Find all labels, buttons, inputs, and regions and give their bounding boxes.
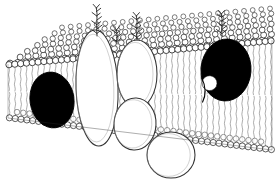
- phospholipid-head-group: [71, 44, 77, 50]
- phospholipid-head-group: [177, 19, 182, 24]
- phospholipid-head-group: [86, 23, 91, 28]
- phospholipid-head-group: [198, 28, 204, 34]
- phospholipid-head-group: [239, 137, 245, 143]
- phospholipid-head-group: [118, 40, 124, 46]
- phospholipid-head-group: [187, 24, 192, 29]
- phospholipid-head-group: [258, 139, 264, 145]
- phospholipid-head-group: [189, 131, 195, 137]
- phospholipid-head-group: [66, 34, 71, 39]
- phospholipid-head-group: [207, 12, 212, 17]
- phospholipid-head-group: [269, 11, 274, 16]
- phospholipid-head-group: [173, 35, 179, 41]
- phospholipid-head-group: [155, 16, 160, 21]
- phospholipid-head-group: [164, 16, 169, 21]
- phospholipid-head-group: [175, 30, 181, 36]
- phospholipid-head-group: [259, 7, 264, 12]
- phospholipid-head-group: [160, 21, 165, 26]
- phospholipid-head-group: [23, 60, 29, 66]
- phospholipid-head-group: [47, 58, 53, 64]
- phospholipid-head-group: [261, 22, 267, 28]
- phospholipid-head-group: [35, 42, 41, 48]
- phospholipid-head-group: [35, 59, 41, 65]
- phospholipid-head-group: [214, 134, 220, 140]
- phospholipid-head-group: [127, 24, 132, 29]
- phospholipid-head-group: [175, 46, 181, 52]
- phospholipid-head-group: [50, 36, 55, 41]
- phospholipid-head-group: [129, 19, 134, 24]
- phospholipid-head-group: [245, 23, 251, 29]
- phospholipid-head-group: [152, 22, 157, 27]
- phospholipid-head-group: [12, 61, 18, 67]
- phospholipid-head-group: [183, 29, 189, 35]
- phospholipid-head-group: [198, 44, 204, 50]
- phospholipid-head-group: [50, 41, 56, 47]
- phospholipid-head-group: [233, 9, 238, 14]
- phospholipid-head-group: [237, 24, 243, 30]
- phospholipid-head-group: [112, 20, 117, 25]
- phospholipid-head-group: [191, 28, 197, 34]
- fluid-mosaic-diagram: [0, 0, 280, 181]
- phospholipid-head-group: [189, 33, 195, 39]
- phospholipid-head-group: [60, 25, 65, 30]
- phospholipid-head-group: [150, 37, 156, 43]
- phospholipid-head-group: [122, 29, 127, 34]
- phospholipid-head-group: [159, 31, 165, 37]
- phospholipid-head-group: [103, 21, 108, 26]
- phospholipid-head-group: [250, 8, 255, 13]
- phospholipid-head-group: [186, 45, 192, 51]
- phospholipid-head-group: [42, 37, 47, 42]
- phospholipid-head-group: [64, 45, 70, 51]
- phospholipid-head-group: [169, 20, 174, 25]
- phospholipid-head-group: [181, 34, 187, 40]
- phospholipid-head-group: [14, 109, 20, 115]
- phospholipid-head-group: [163, 26, 168, 31]
- phospholipid-head-group: [68, 24, 73, 29]
- phospholipid-head-group: [202, 17, 207, 22]
- phospholipid-head-group: [77, 23, 82, 28]
- phospholipid-head-group: [224, 10, 229, 15]
- phospholipid-head-group: [202, 132, 208, 138]
- phospholipid-head-group: [167, 30, 173, 36]
- phospholipid-head-group: [179, 24, 184, 29]
- phospholipid-head-group: [181, 14, 186, 19]
- phospholipid-head-group: [246, 137, 252, 143]
- phospholipid-head-group: [252, 138, 258, 144]
- phospholipid-head-group: [111, 41, 117, 47]
- phospholipid-head-group: [41, 58, 47, 64]
- phospholipid-head-group: [253, 23, 259, 29]
- glycan-stem: [96, 8, 97, 36]
- phospholipid-head-group: [233, 136, 239, 142]
- phospholipid-head-group: [181, 46, 187, 52]
- phospholipid-head-group: [250, 39, 256, 45]
- phospholipid-head-group: [227, 20, 232, 25]
- phospholipid-head-group: [58, 57, 64, 63]
- phospholipid-head-group: [106, 31, 111, 36]
- membrane-figure: Fluid mosaic model of the plasma membran…: [0, 0, 280, 181]
- phospholipid-head-group: [69, 29, 74, 34]
- phospholipid-head-group: [236, 29, 242, 35]
- phospholipid-head-group: [211, 21, 216, 26]
- phospholipid-head-group: [243, 18, 248, 23]
- peripheral-protein-circle-bottom: [147, 132, 195, 178]
- phospholipid-head-group: [163, 47, 169, 53]
- phospholipid-head-group: [6, 62, 12, 68]
- phospholipid-head-group: [24, 48, 30, 54]
- phospholipid-head-group: [198, 12, 203, 17]
- phospholipid-head-group: [208, 133, 214, 139]
- phospholipid-head-group: [32, 48, 38, 54]
- phospholipid-head-group: [48, 46, 54, 52]
- phospholipid-head-group: [267, 16, 272, 21]
- phospholipid-head-group: [252, 13, 257, 18]
- phospholipid-head-group: [227, 135, 233, 141]
- phospholipid-head-group: [52, 57, 58, 63]
- phospholipid-head-group: [262, 38, 268, 44]
- phospholipid-head-group: [259, 17, 264, 22]
- phospholipid-head-group: [244, 28, 250, 34]
- phospholipid-head-group: [52, 31, 57, 36]
- phospholipid-head-group: [242, 8, 247, 13]
- phospholipid-head-group: [64, 56, 70, 62]
- phospholipid-head-group: [155, 26, 160, 31]
- phospholipid-head-group: [120, 19, 125, 24]
- phospholipid-head-group: [244, 13, 249, 18]
- phospholipid-head-group: [171, 25, 176, 30]
